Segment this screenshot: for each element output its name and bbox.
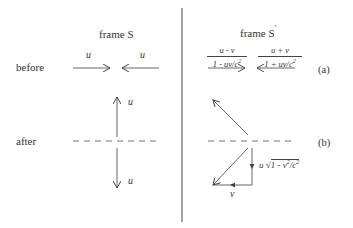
before-right-velocity-fraction: u + v 1 + uv/c2 (257, 46, 303, 68)
vertical-component-label: u √1 - v2/c2 (259, 159, 299, 170)
fraction-numerator: u - v (206, 46, 248, 56)
denominator-text: 1 - uv/c (213, 58, 239, 68)
label-u: u (259, 160, 266, 170)
horizontal-component-label: v (230, 188, 234, 199)
after-prime-arrow-upleft (213, 100, 248, 135)
horizontal-component-arrowhead (230, 183, 235, 188)
diagram-canvas (0, 0, 353, 228)
fraction-denominator: 1 + uv/c2 (257, 57, 303, 68)
radicand: 1 - v2/c2 (271, 159, 300, 170)
row-label-before: before (16, 61, 44, 73)
row-label-after: after (16, 135, 36, 147)
after-up-velocity-label: u (128, 96, 133, 107)
row-tag-b: (b) (318, 137, 330, 148)
prime-mark: ′ (275, 24, 277, 33)
after-prime-diagonal-arrow (213, 148, 248, 185)
fraction-numerator: u + v (257, 46, 303, 56)
before-right-velocity-label: u (140, 49, 145, 60)
fraction-denominator: 1 - uv/c2 (206, 57, 248, 68)
before-left-velocity-fraction: u - v 1 - uv/c2 (206, 46, 248, 68)
denominator-text: 1 + uv/c (264, 58, 292, 68)
c-exponent: 2 (296, 159, 299, 165)
after-down-velocity-label: u (128, 175, 133, 186)
denominator-exponent: 2 (293, 58, 296, 64)
row-tag-a: (a) (318, 64, 330, 75)
frame-s-title: frame S (99, 28, 134, 40)
radicand-text: 1 - v (271, 160, 287, 170)
frame-s-prime-title-text: frame S (240, 27, 275, 39)
before-left-velocity-label: u (86, 49, 91, 60)
vertical-component-arrowhead (250, 164, 255, 169)
denominator-exponent: 2 (238, 58, 241, 64)
frame-s-prime-title: frame S′ (240, 24, 276, 39)
